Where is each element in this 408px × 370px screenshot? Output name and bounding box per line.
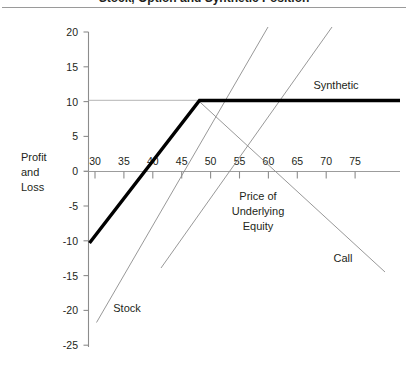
x-axis-title-line-1: Price of — [239, 190, 277, 202]
y-axis-tick-labels: 20 15 10 5 0 -5 -10 -15 -20 -25 — [63, 26, 78, 351]
y-axis-title: Profit and Loss — [21, 151, 47, 193]
y-tick-label-20: 20 — [66, 26, 78, 38]
y-tick-label--15: -15 — [63, 270, 78, 282]
chart-figure: Stock, Option and Synthetic Position 20 … — [0, 0, 408, 370]
series-line-call — [198, 100, 385, 272]
y-tick-label-5: 5 — [72, 130, 78, 142]
x-axis-tick-labels: 30 35 40 45 50 55 60 65 70 75 — [89, 155, 361, 167]
y-tick-label--25: -25 — [63, 339, 78, 351]
y-axis-title-line-1: Profit — [21, 151, 47, 163]
x-tick-label-35: 35 — [118, 155, 130, 167]
series-label-stock: Stock — [113, 302, 141, 314]
series-line-stock — [97, 27, 269, 323]
series-label-call: Call — [334, 252, 353, 264]
thin-series-lines — [97, 27, 386, 323]
series-label-synthetic: Synthetic — [313, 79, 359, 91]
x-tick-label-45: 45 — [176, 155, 188, 167]
y-tick-label--20: -20 — [63, 304, 78, 316]
y-axis-title-line-2: and — [21, 166, 39, 178]
y-tick-label-0: 0 — [72, 165, 78, 177]
y-tick-label-15: 15 — [66, 61, 78, 73]
y-tick-label--10: -10 — [63, 235, 78, 247]
x-axis-title-line-3: Equity — [243, 220, 274, 232]
y-axis-title-line-3: Loss — [21, 181, 45, 193]
x-axis-title: Price of Underlying Equity — [232, 190, 285, 232]
series-annotations: Synthetic Call Stock — [113, 79, 359, 314]
x-tick-label-30: 30 — [89, 155, 101, 167]
x-tick-label-50: 50 — [205, 155, 217, 167]
x-tick-label-65: 65 — [291, 155, 303, 167]
y-tick-label-10: 10 — [66, 96, 78, 108]
x-tick-label-70: 70 — [320, 155, 332, 167]
y-axis-ticks — [84, 32, 89, 345]
chart-plot-area: 20 15 10 5 0 -5 -10 -15 -20 -25 30 — [0, 0, 408, 370]
x-tick-label-75: 75 — [349, 155, 361, 167]
y-tick-label--5: -5 — [69, 200, 78, 212]
x-axis-title-line-2: Underlying — [232, 205, 285, 217]
